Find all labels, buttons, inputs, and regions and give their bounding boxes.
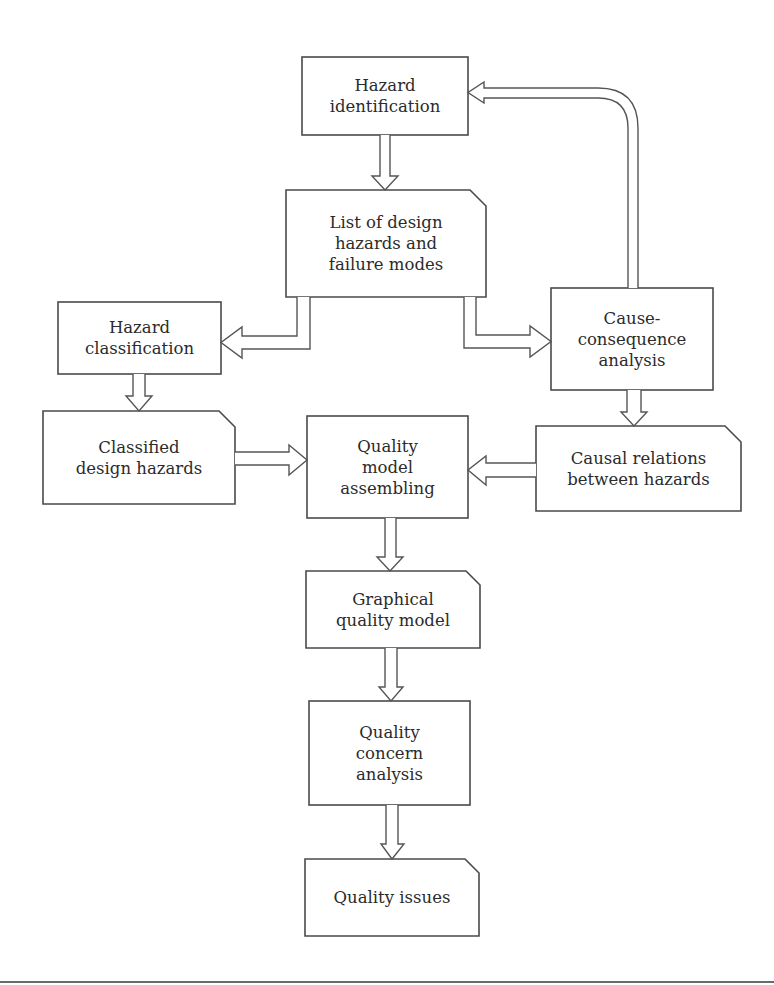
label-quality-model-assembling: Quality model assembling xyxy=(307,416,468,518)
arrow-classification-to-classified xyxy=(126,374,152,411)
arrow-list-to-cause-consequence xyxy=(464,297,551,357)
bottom-rule-divider xyxy=(0,981,774,983)
arrow-list-to-classification xyxy=(221,297,310,358)
arrow-assembling-to-graphical xyxy=(377,518,403,571)
arrow-concern-to-issues xyxy=(381,805,404,859)
label-hazard-classification: Hazard classification xyxy=(58,302,221,374)
arrow-graphical-to-concern xyxy=(379,648,403,701)
label-quality-concern-analysis: Quality concern analysis xyxy=(309,701,470,805)
label-causal-relations: Causal relations between hazards xyxy=(536,426,741,511)
label-hazard-identification: Hazard identification xyxy=(302,57,468,135)
arrow-identification-to-list xyxy=(372,135,398,190)
label-quality-issues: Quality issues xyxy=(305,859,479,936)
arrow-classified-to-assembling xyxy=(235,445,307,475)
label-cause-consequence-analysis: Cause- consequence analysis xyxy=(551,288,713,390)
arrow-causal-to-assembling xyxy=(468,456,536,485)
label-design-hazards-list: List of design hazards and failure modes xyxy=(286,190,486,297)
arrow-feedback-to-identification xyxy=(468,82,638,288)
arrow-cause-to-causal-relations xyxy=(621,390,647,426)
label-classified-design-hazards: Classified design hazards xyxy=(43,411,235,504)
label-graphical-quality-model: Graphical quality model xyxy=(306,571,480,648)
